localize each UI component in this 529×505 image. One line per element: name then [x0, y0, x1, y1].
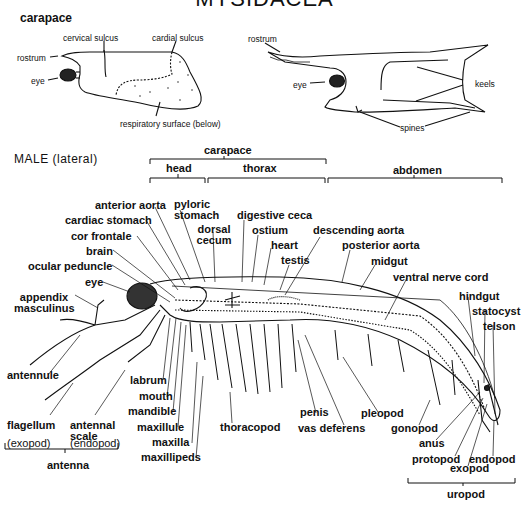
label-ocular-peduncle: ocular peduncle — [28, 261, 112, 272]
label-maxillipeds: maxillipeds — [141, 452, 201, 463]
region-thorax: thorax — [243, 163, 277, 174]
label-pyloric-stomach-2: stomach — [174, 210, 219, 221]
mysidacea-diagram: MYSIDACEA carapace cervical sulcus cardi… — [0, 0, 529, 505]
label-uropod: uropod — [447, 489, 485, 500]
label-eye-right: eye — [293, 80, 307, 91]
label-exopod-paren: (exopod) — [7, 438, 50, 449]
label-flagellum: flagellum — [7, 420, 55, 431]
label-labrum: labrum — [130, 375, 167, 386]
label-testis: testis — [281, 255, 310, 266]
label-heart: heart — [271, 240, 298, 251]
label-endopod-paren: (endopod) — [70, 438, 120, 449]
label-cardial-sulcus: cardial sulcus — [152, 33, 204, 44]
label-hindgut: hindgut — [459, 291, 499, 302]
label-appendix-masculinus-2: masculinus — [14, 303, 74, 314]
label-descending-aorta: descending aorta — [313, 225, 404, 236]
label-mandible: mandible — [128, 406, 176, 417]
label-cervical-sulcus: cervical sulcus — [63, 33, 118, 44]
label-antenna: antenna — [47, 460, 89, 471]
label-thoracopod: thoracopod — [220, 422, 281, 433]
label-eye-male: eye — [85, 277, 103, 288]
label-penis: penis — [300, 407, 329, 418]
label-antennule: antennule — [7, 370, 59, 381]
label-vas-deferens: vas deferens — [298, 423, 365, 434]
carapace-heading: carapace — [20, 13, 72, 24]
mysid-body — [30, 277, 500, 432]
label-digestive-ceca: digestive ceca — [237, 210, 312, 221]
label-rostrum-right: rostrum — [248, 34, 277, 45]
label-rostrum-left: rostrum — [17, 53, 46, 64]
label-anus: anus — [419, 438, 445, 449]
carapace-outline-left — [48, 41, 201, 116]
label-posterior-aorta: posterior aorta — [342, 240, 420, 251]
label-dorsal-cecum-2: cecum — [194, 235, 234, 246]
label-respiratory-surface: respiratory surface (below) — [120, 119, 221, 130]
label-ventral-nerve-cord: ventral nerve cord — [393, 272, 488, 283]
label-exopod: exopod — [450, 463, 489, 474]
label-statocyst: statocyst — [472, 306, 520, 317]
diagram-title: MYSIDACEA — [0, 0, 529, 12]
label-cardiac-stomach: cardiac stomach — [65, 215, 152, 226]
label-cor-frontale: cor frontale — [71, 231, 132, 242]
label-midgut: midgut — [371, 256, 408, 267]
label-ostium: ostium — [252, 225, 288, 236]
male-heading: MALE (lateral) — [14, 152, 98, 166]
label-telson: telson — [483, 321, 515, 332]
label-keels: keels — [475, 79, 495, 90]
label-spines: spines — [400, 123, 425, 134]
label-mouth: mouth — [139, 391, 173, 402]
label-maxilla: maxilla — [152, 437, 189, 448]
label-brain: brain — [86, 246, 113, 257]
label-eye-left: eye — [31, 76, 45, 87]
label-gonopod: gonopod — [391, 423, 438, 434]
label-anterior-aorta: anterior aorta — [95, 200, 166, 211]
region-abdomen: abdomen — [393, 165, 442, 176]
region-head: head — [166, 163, 192, 174]
label-pleopod: pleopod — [361, 408, 404, 419]
label-maxillule: maxillule — [137, 422, 184, 433]
region-carapace: carapace — [204, 145, 252, 156]
